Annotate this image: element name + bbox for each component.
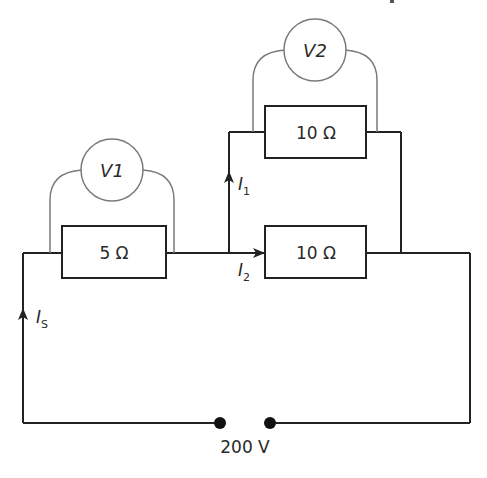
is-label: IS: [36, 307, 48, 331]
cropped-text-remnant: [390, 0, 394, 3]
supply-terminal-left: [214, 417, 226, 429]
i1-label: I1: [238, 174, 250, 198]
supply-terminal-right: [264, 417, 276, 429]
circuit-diagram: 5 Ω 10 Ω 10 Ω V1 V2 200 V IS I1 I2: [0, 0, 487, 478]
v2-label: V2: [303, 40, 327, 61]
i2-label: I2: [238, 260, 250, 284]
r1-label: 5 Ω: [99, 243, 128, 263]
r3-label: 10 Ω: [296, 243, 336, 263]
supply-label: 200 V: [220, 437, 270, 457]
r2-label: 10 Ω: [296, 123, 336, 143]
v1-label: V1: [100, 160, 124, 181]
